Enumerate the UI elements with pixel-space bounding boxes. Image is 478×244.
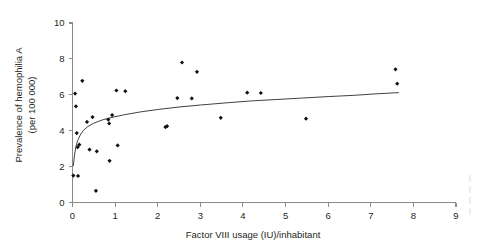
data-point — [304, 117, 308, 121]
data-point — [180, 60, 184, 64]
data-point — [75, 131, 79, 135]
data-point — [107, 159, 111, 163]
axes — [73, 23, 457, 203]
fit-curve — [73, 93, 398, 166]
svg-text:|: | — [469, 207, 471, 215]
data-point — [95, 149, 99, 153]
x-tick-label: 2 — [155, 210, 160, 221]
x-tick-label: 8 — [411, 210, 416, 221]
y-tick-label: 2 — [59, 161, 64, 172]
data-point — [94, 189, 98, 193]
data-point — [90, 115, 94, 119]
x-tick-label: 3 — [198, 210, 203, 221]
data-point — [245, 91, 249, 95]
data-point — [395, 82, 399, 86]
y-tick-label: 10 — [54, 17, 65, 28]
y-tick-label: 8 — [59, 53, 64, 64]
scatter-plot: 0246810 0123456789 Factor VIII usage (IU… — [0, 0, 478, 244]
data-point — [259, 91, 263, 95]
x-tick-labels: 0123456789 — [70, 210, 459, 221]
data-point — [110, 113, 114, 117]
data-point — [87, 147, 91, 151]
x-tick-label: 7 — [368, 210, 373, 221]
x-tick-label: 0 — [70, 210, 75, 221]
data-point — [73, 91, 77, 95]
x-tick-label: 9 — [453, 210, 458, 221]
fit-curve-path — [73, 93, 398, 166]
data-point — [123, 89, 127, 93]
x-tick-label: 1 — [112, 210, 117, 221]
data-point — [195, 70, 199, 74]
clipped-edge-text: | | | | — [469, 174, 471, 215]
data-point — [116, 143, 120, 147]
svg-text:|: | — [469, 185, 471, 193]
data-point — [114, 88, 118, 92]
y-tick-label: 6 — [59, 89, 64, 100]
data-point — [76, 174, 80, 178]
data-point — [175, 96, 179, 100]
x-axis-title: Factor VIII usage (IU)/inhabitant — [186, 229, 321, 240]
chart-figure: 0246810 0123456789 Factor VIII usage (IU… — [0, 0, 478, 244]
x-tick-label: 6 — [326, 210, 331, 221]
y-axis-title-line2: (per 100 000) — [26, 76, 37, 133]
data-point — [85, 120, 89, 124]
data-point — [74, 104, 78, 108]
data-point — [219, 116, 223, 120]
data-point — [107, 121, 111, 125]
data-points — [71, 60, 399, 193]
x-tick-label: 4 — [240, 210, 245, 221]
y-tick-label: 4 — [59, 125, 64, 136]
data-point — [393, 67, 397, 71]
data-point — [71, 173, 75, 177]
y-tick-label: 0 — [59, 197, 64, 208]
svg-text:|: | — [469, 196, 471, 204]
svg-text:|: | — [469, 174, 471, 182]
y-axis-title-line1: Prevalence of hemophilia A — [13, 47, 24, 163]
y-tick-labels: 0246810 — [54, 17, 65, 208]
x-tick-label: 5 — [283, 210, 288, 221]
data-point — [80, 79, 84, 83]
data-point — [190, 96, 194, 100]
